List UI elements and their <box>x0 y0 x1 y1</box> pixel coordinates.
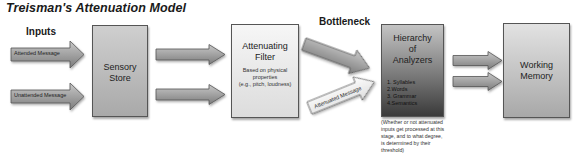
analyzer-item: 2.Words <box>387 86 417 93</box>
bottleneck-arrow <box>304 28 378 70</box>
analyzer-item: 4.Semantics <box>387 100 417 107</box>
analyzer-item: 3. Grammar <box>387 93 417 100</box>
working-memory-box: Working Memory <box>503 23 570 118</box>
caption-line: inputs get processed at this <box>381 126 456 133</box>
filter-sub-1: Based on physical <box>232 67 298 74</box>
diagram-title: Treisman's Attenuation Model <box>6 1 186 15</box>
store-to-filter-arrow-top <box>155 44 227 66</box>
threshold-caption: (Whether or not attenuated inputs get pr… <box>381 119 456 154</box>
hierarchy-of-analyzers-box: Hierarchy of Analyzers 1. Syllables 2.Wo… <box>381 24 444 117</box>
caption-line: stage, and to what degree, <box>381 133 456 140</box>
hierarchy-to-wm-arrow-top <box>452 51 504 71</box>
unattended-message-label: Unattended Message <box>14 92 66 98</box>
hierarchy-title-3: Analyzers <box>382 55 443 66</box>
sensory-store-box: Sensory Store <box>92 25 148 117</box>
store-to-filter-arrow-bottom <box>155 84 227 106</box>
analyzer-list: 1. Syllables 2.Words 3. Grammar 4.Semant… <box>387 79 417 107</box>
filter-sub-3: (e.g., pitch, loudness) <box>232 81 298 88</box>
hierarchy-to-wm-arrow-bottom <box>452 72 504 92</box>
caption-line: (Whether or not attenuated <box>381 119 456 126</box>
working-memory-title-1: Working <box>504 60 569 71</box>
working-memory-title-2: Memory <box>504 71 569 82</box>
inputs-label: Inputs <box>26 26 56 37</box>
attended-message-label: Attended Message <box>14 50 60 56</box>
analyzer-item: 1. Syllables <box>387 79 417 86</box>
attenuated-message-arrow: Attenuated Message <box>304 66 378 112</box>
filter-sub-2: properties <box>232 74 298 81</box>
filter-title-2: Filter <box>232 52 298 63</box>
hierarchy-title-2: of <box>382 44 443 55</box>
sensory-store-title-2: Store <box>93 73 147 84</box>
caption-line: threshold) <box>381 147 456 154</box>
filter-title-1: Attenuating <box>232 41 298 52</box>
bottleneck-label: Bottleneck <box>319 16 370 27</box>
caption-line: is determined by their <box>381 140 456 147</box>
attenuating-filter-box: Attenuating Filter Based on physical pro… <box>231 24 299 118</box>
hierarchy-title-1: Hierarchy <box>382 33 443 44</box>
sensory-store-title-1: Sensory <box>93 62 147 73</box>
